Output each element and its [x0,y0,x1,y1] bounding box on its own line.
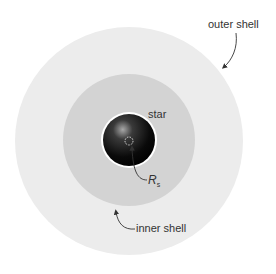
radius-subscript: s [157,181,161,188]
outer-shell-label: outer shell [208,18,259,30]
star-label: star [148,108,166,120]
radius-label: Rs [148,173,160,188]
inner-shell-label: inner shell [136,222,186,234]
outer-shell-arrow [224,33,236,67]
radius-symbol: R [148,173,157,187]
star [103,114,155,166]
